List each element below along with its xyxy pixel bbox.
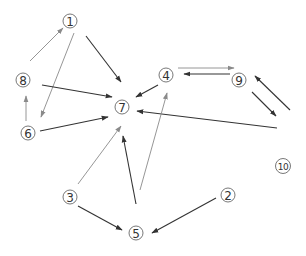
edge-4-to-7 (136, 85, 158, 97)
node-label: 10 (278, 162, 289, 172)
node-label: 8 (19, 74, 27, 88)
graph-canvas: 12345678910 (0, 0, 306, 256)
node-label: 1 (66, 15, 74, 29)
edge-8-to-1 (30, 28, 63, 61)
edge-6-to-7 (40, 117, 108, 131)
node-label: 6 (24, 127, 32, 141)
node-label: 3 (66, 191, 74, 205)
node-label: 7 (118, 101, 126, 115)
edge-2-to-5 (152, 198, 216, 233)
node-label: 5 (132, 227, 140, 241)
node-label: 9 (235, 74, 243, 88)
node-4: 4 (159, 68, 173, 83)
edge-10-to-9 (255, 76, 290, 110)
node-10: 10 (276, 159, 291, 174)
node-2: 2 (221, 188, 235, 203)
node-6: 6 (21, 126, 35, 141)
node-label: 4 (162, 69, 170, 83)
edge-5-to-4 (140, 93, 167, 190)
edge-5-to-7 (123, 136, 136, 204)
node-1: 1 (63, 14, 77, 29)
edge-9-to-10 (252, 92, 276, 116)
edge-3-to-5 (78, 206, 122, 230)
node-9: 9 (232, 73, 246, 88)
node-3: 3 (63, 190, 77, 205)
node-label: 2 (224, 189, 232, 203)
edge-8-to-7 (42, 85, 112, 97)
node-8: 8 (16, 73, 30, 88)
node-7: 7 (115, 100, 129, 115)
node-5: 5 (129, 226, 143, 241)
edge-1-to-7 (86, 36, 121, 82)
edge-3-to-7 (78, 126, 121, 184)
